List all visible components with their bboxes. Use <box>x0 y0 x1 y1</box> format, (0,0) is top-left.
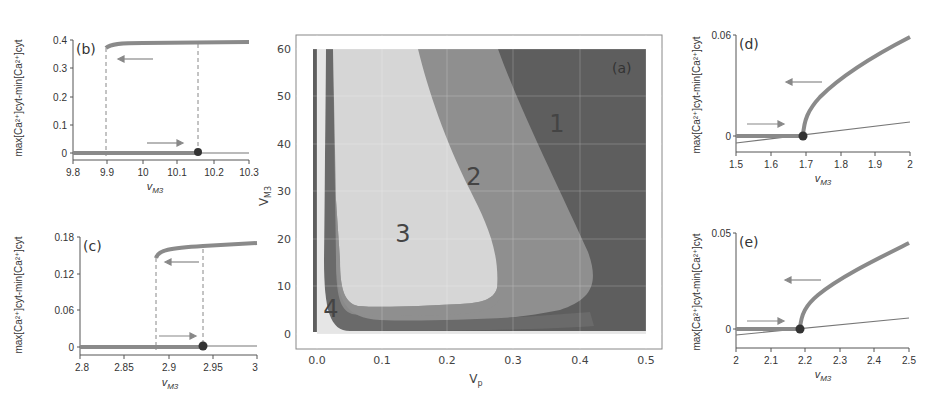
svg-text:1.5: 1.5 <box>729 159 743 170</box>
panel-e-x-title: vM3 <box>815 368 832 383</box>
x-tick: 0.4 <box>571 354 589 367</box>
region-3-label: 3 <box>395 220 410 248</box>
svg-text:0.1: 0.1 <box>53 120 67 131</box>
panel-b-y-title: max[Ca²⁺]cyt-min[Ca²⁺]cyt <box>13 39 24 156</box>
panel-b-x-ticks: 9.8 9.9 10 10.1 10.2 10.3 <box>66 167 259 178</box>
svg-text:0.06: 0.06 <box>712 30 732 41</box>
x-tick: 0.5 <box>637 354 655 367</box>
y-tick: 20 <box>277 233 291 246</box>
oscillation-branch-curve <box>803 37 910 136</box>
bifurcation-point <box>194 148 202 156</box>
y-tick: 10 <box>277 280 291 293</box>
svg-text:0: 0 <box>725 324 731 335</box>
panel-c-label: (c) <box>83 238 102 254</box>
svg-text:2.1: 2.1 <box>764 355 778 366</box>
oscillation-branch-curve <box>800 243 909 329</box>
panel-c-x-ticks: 2.8 2.85 2.9 2.95 3 <box>75 362 258 373</box>
y-tick: 0 <box>284 328 291 341</box>
upper-branch-curve <box>106 42 249 48</box>
svg-text:1.7: 1.7 <box>799 159 813 170</box>
panel-a-label: (a) <box>612 60 632 76</box>
svg-text:0.06: 0.06 <box>55 305 75 316</box>
panel-a-y-ticks: 0 10 20 30 40 50 60 <box>277 43 291 341</box>
panel-c-y-title: max[Ca²⁺]cyt-min[Ca²⁺]cyt <box>13 236 24 353</box>
x-tick: 0.2 <box>438 354 456 367</box>
panel-a-x-title: Vp <box>469 372 482 388</box>
svg-text:10.3: 10.3 <box>239 167 259 178</box>
svg-text:2.5: 2.5 <box>902 355 916 366</box>
panel-a-y-title: VM3 <box>257 186 273 206</box>
panel-c-x-title: vM3 <box>162 376 179 391</box>
x-tick: 0.3 <box>504 354 522 367</box>
panel-c: 0.18 0.12 0.06 0 2.8 2.85 2.9 2.95 3 vM3… <box>13 232 258 391</box>
panel-b-y-ticks: 0.4 0.3 0.2 0.1 0 <box>53 35 67 159</box>
unstable-branch-curve <box>736 122 910 143</box>
svg-text:10.1: 10.1 <box>167 167 187 178</box>
svg-text:2: 2 <box>907 159 913 170</box>
svg-text:2.95: 2.95 <box>203 362 223 373</box>
panel-e-label: (e) <box>739 234 759 250</box>
svg-text:2.9: 2.9 <box>162 362 176 373</box>
upper-branch-curve <box>156 243 257 258</box>
svg-text:0.3: 0.3 <box>53 63 67 74</box>
svg-text:1.8: 1.8 <box>834 159 848 170</box>
panel-d-y-title: max[Ca²⁺]cyt-min[Ca²⁺]cyt <box>691 36 702 153</box>
panel-c-y-ticks: 0.18 0.12 0.06 0 <box>55 232 75 353</box>
svg-text:10.2: 10.2 <box>204 167 224 178</box>
panel-d-x-title: vM3 <box>815 172 832 187</box>
x-tick: 0.0 <box>308 354 326 367</box>
svg-text:2.4: 2.4 <box>867 355 881 366</box>
panel-d: 0.06 0 1.5 1.6 1.7 1.8 1.9 2 vM3 max[Ca²… <box>691 30 913 187</box>
svg-text:0: 0 <box>68 342 74 353</box>
bifurcation-point <box>796 325 805 334</box>
svg-text:0.18: 0.18 <box>55 232 75 243</box>
svg-text:10: 10 <box>137 167 149 178</box>
region-2-label: 2 <box>466 163 481 191</box>
svg-text:0.05: 0.05 <box>712 228 732 239</box>
svg-text:2.3: 2.3 <box>833 355 847 366</box>
svg-text:2.2: 2.2 <box>798 355 812 366</box>
svg-text:2: 2 <box>733 355 739 366</box>
svg-text:1.6: 1.6 <box>764 159 778 170</box>
y-tick: 30 <box>277 185 291 198</box>
svg-text:0: 0 <box>725 131 731 142</box>
svg-text:9.9: 9.9 <box>100 167 114 178</box>
svg-text:0.2: 0.2 <box>53 92 67 103</box>
svg-text:9.8: 9.8 <box>66 167 80 178</box>
panel-b-x-title: vM3 <box>147 180 164 195</box>
svg-text:2.85: 2.85 <box>114 362 134 373</box>
svg-text:0.12: 0.12 <box>55 269 75 280</box>
svg-text:0.4: 0.4 <box>53 35 67 46</box>
y-tick: 50 <box>277 90 291 103</box>
panel-b-label: (b) <box>76 41 96 57</box>
x-tick: 0.1 <box>373 354 391 367</box>
panel-b: 0.4 0.3 0.2 0.1 0 9.8 9.9 10 10.1 10.2 1… <box>13 35 259 195</box>
panel-e: 0.05 0 2 2.1 2.2 2.3 2.4 2.5 vM3 max[Ca²… <box>691 228 916 383</box>
y-tick: 60 <box>277 43 291 56</box>
y-tick: 40 <box>277 138 291 151</box>
panel-a-x-ticks: 0.0 0.1 0.2 0.3 0.4 0.5 <box>308 354 655 367</box>
svg-text:3: 3 <box>252 362 258 373</box>
panel-a: 0.0 0.1 0.2 0.3 0.4 0.5 0 10 20 30 40 50… <box>257 35 662 388</box>
svg-text:1.9: 1.9 <box>868 159 882 170</box>
panel-d-label: (d) <box>739 36 759 52</box>
panel-e-y-title: max[Ca²⁺]cyt-min[Ca²⁺]cyt <box>691 233 702 350</box>
region-1-label: 1 <box>549 110 564 138</box>
region-4-label: 4 <box>323 295 338 323</box>
figure: 0.0 0.1 0.2 0.3 0.4 0.5 0 10 20 30 40 50… <box>0 0 947 404</box>
svg-text:0: 0 <box>61 148 67 159</box>
svg-text:2.8: 2.8 <box>75 362 89 373</box>
bifurcation-point <box>199 342 208 351</box>
bifurcation-point <box>799 132 808 141</box>
